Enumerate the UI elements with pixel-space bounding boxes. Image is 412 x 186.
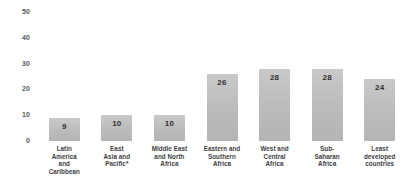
bar-value-label: 10 [101, 119, 132, 128]
bar: 28 [259, 69, 290, 141]
category-label: East Asia and Pacific* [91, 145, 144, 168]
category-label: Latin America and Caribbean [38, 145, 91, 175]
bar-chart: 01020304050 9Latin America and Caribbean… [0, 0, 412, 186]
y-axis-tick-label: 30 [22, 60, 30, 68]
bar-slot: 10 [154, 12, 185, 141]
bar-slot: 9 [49, 12, 80, 141]
bar-value-label: 28 [259, 73, 290, 82]
bar-value-label: 26 [207, 78, 238, 87]
category-label: West and Central Africa [248, 145, 301, 168]
bar: 10 [154, 115, 185, 141]
bar: 28 [312, 69, 343, 141]
bar-value-label: 9 [49, 122, 80, 131]
bar: 9 [49, 118, 80, 141]
bar-value-label: 10 [154, 119, 185, 128]
y-axis: 01020304050 [0, 0, 38, 186]
bar: 24 [364, 79, 395, 141]
y-axis-tick-label: 50 [22, 8, 30, 16]
category-label: Sub- Saharan Africa [301, 145, 354, 168]
bar-slot: 24 [364, 12, 395, 141]
bar-slot: 28 [312, 12, 343, 141]
y-axis-tick-label: 40 [22, 34, 30, 42]
bar: 10 [101, 115, 132, 141]
bar-slot: 10 [101, 12, 132, 141]
bar-value-label: 28 [312, 73, 343, 82]
category-label: Least developed countries [353, 145, 406, 168]
y-axis-tick-label: 20 [22, 85, 30, 93]
bar-slot: 26 [207, 12, 238, 141]
bar-value-label: 24 [364, 83, 395, 92]
bar: 26 [207, 74, 238, 141]
bar-slot: 28 [259, 12, 290, 141]
y-axis-tick-label: 10 [22, 111, 30, 119]
category-label: Middle East and North Africa [143, 145, 196, 168]
y-axis-tick-label: 0 [26, 137, 30, 145]
category-label: Eastern and Southern Africa [196, 145, 249, 168]
